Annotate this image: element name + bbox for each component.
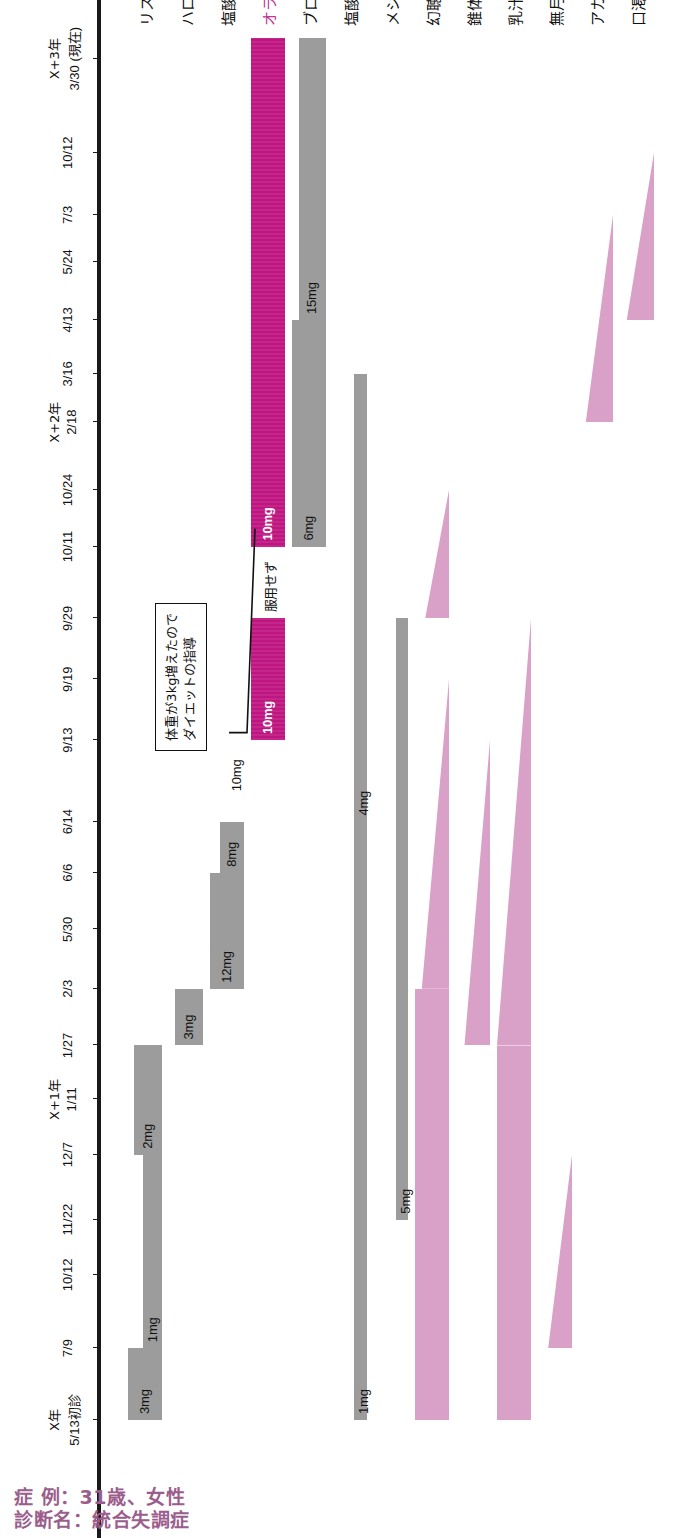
dose-label: 5mg	[398, 1189, 413, 1214]
axis-date-label: 10/12	[60, 1259, 75, 1292]
row-label-drug: リスペリドン	[135, 0, 156, 26]
row-label-drug: 塩酸ペロスピロン	[217, 0, 238, 26]
axis-tick	[93, 1274, 101, 1275]
axis-date-label: 5/24	[60, 249, 75, 274]
axis-tick	[93, 1219, 101, 1220]
annotation-line: ダイエットの指導	[181, 613, 199, 741]
row-label-drug: ブロマゼパム	[299, 0, 320, 26]
axis-tick-label: X+1年1/11	[44, 1079, 79, 1120]
time-axis-line	[97, 0, 101, 1538]
axis-date-label: 5/30	[60, 917, 75, 942]
axis-tick-label: 2/3	[60, 980, 75, 998]
axis-tick-label: 4/13	[60, 307, 75, 332]
row-label-drug: メシル酸ブロモクリプチン	[381, 0, 402, 26]
timeline-figure: X年5/13初診7/910/1211/2212/7X+1年1/111/272/3…	[0, 0, 682, 1538]
dose-bar	[354, 374, 367, 822]
axis-tick-label: 10/12	[60, 1259, 75, 1292]
axis-tick	[93, 617, 101, 618]
symptom-bar	[497, 1045, 531, 1420]
axis-tick-label: 1/27	[60, 1033, 75, 1058]
axis-tick	[93, 152, 101, 153]
annotation-leader-line	[0, 0, 682, 1538]
dose-label: 1mg	[356, 1389, 371, 1414]
axis-tick-label: 11/22	[60, 1204, 75, 1236]
dose-bar	[299, 38, 326, 320]
axis-tick	[93, 489, 101, 490]
axis-date-label: 10/24	[60, 474, 75, 507]
figure-page: X年5/13初診7/910/1211/2212/7X+1年1/111/272/3…	[0, 0, 682, 1538]
axis-date-label: 3/30 (現在)	[64, 27, 83, 91]
axis-date-label: 1/11	[64, 1079, 79, 1120]
axis-tick-label: 9/13	[60, 727, 75, 752]
symptom-bar	[579, 215, 613, 422]
symptom-bar	[497, 618, 531, 1045]
axis-date-label: 10/11	[60, 531, 75, 563]
axis-tick-label: 10/11	[60, 531, 75, 563]
axis-tick-label: 3/16	[60, 361, 75, 386]
symptom-bar	[415, 679, 449, 989]
axis-tick	[93, 373, 101, 374]
axis-tick	[93, 1347, 101, 1348]
axis-date-label: 9/29	[60, 606, 75, 631]
axis-date-label: 2/18	[64, 402, 79, 443]
axis-tick	[93, 546, 101, 547]
axis-date-label: 6/14	[60, 809, 75, 834]
axis-year-label: X+3年	[44, 27, 63, 91]
axis-year-label: X+1年	[44, 1079, 63, 1120]
axis-date-label: 9/13	[60, 727, 75, 752]
axis-date-label: 7/9	[60, 1339, 75, 1357]
axis-tick	[93, 821, 101, 822]
symptom-bar	[415, 989, 449, 1420]
axis-date-label: 6/6	[60, 864, 75, 882]
dose-label: 2mg	[140, 1124, 155, 1149]
axis-date-label: 5/13初診	[64, 1394, 83, 1445]
dose-label: 10mg	[260, 507, 275, 540]
annotation-line: 体重が3kg増えたので	[163, 613, 181, 741]
axis-date-label: 1/27	[60, 1033, 75, 1058]
dose-label: 4mg	[356, 791, 371, 816]
axis-tick-label: 5/24	[60, 249, 75, 274]
dose-label: 6mg	[301, 516, 316, 541]
row-label-drug: 塩酸ビペリデン	[340, 0, 361, 26]
axis-tick-label: 7/3	[60, 206, 75, 224]
axis-tick	[93, 1098, 101, 1099]
row-label-symptom: 幻聴	[422, 0, 443, 26]
axis-date-label: 10/12	[60, 136, 75, 169]
dose-label: 3mg	[137, 1389, 152, 1414]
axis-tick-label: 6/14	[60, 809, 75, 834]
axis-tick	[93, 58, 101, 59]
axis-date-label: 4/13	[60, 307, 75, 332]
axis-date-label: 3/16	[60, 361, 75, 386]
dose-label: 12mg	[219, 951, 234, 983]
axis-tick	[93, 928, 101, 929]
axis-year-label: X+2年	[44, 402, 63, 443]
axis-tick	[93, 988, 101, 989]
axis-tick-label: 6/6	[60, 864, 75, 882]
symptom-bar	[538, 1155, 572, 1348]
row-label-symptom: 乳汁分泌	[504, 0, 525, 26]
row-label-symptom: アカシジア	[586, 0, 607, 26]
axis-tick-label: X+2年2/18	[44, 402, 79, 443]
axis-tick	[93, 739, 101, 740]
row-label-symptom: 錐体外路症状	[463, 0, 484, 26]
row-label-drug: ハロペリドール	[176, 0, 197, 26]
axis-tick-label: 7/9	[60, 1339, 75, 1357]
axis-tick	[93, 421, 101, 422]
dose-bar	[251, 38, 285, 547]
row-label-symptom: 口渇	[627, 0, 648, 26]
dose-label: 服用せず	[260, 561, 279, 612]
axis-tick-label: X+3年3/30 (現在)	[44, 27, 83, 91]
dose-bar	[354, 822, 367, 1420]
axis-tick-label: 9/19	[60, 667, 75, 692]
axis-date-label: 2/3	[60, 980, 75, 998]
axis-tick-label: X年5/13初診	[44, 1394, 83, 1445]
dose-bar	[292, 320, 326, 547]
axis-date-label: 11/22	[60, 1204, 75, 1236]
axis-tick-label: 10/24	[60, 474, 75, 507]
dose-label: 10mg	[260, 701, 275, 734]
symptom-bar	[620, 153, 654, 320]
axis-tick	[93, 1154, 101, 1155]
axis-date-label: 9/19	[60, 667, 75, 692]
symptom-bar	[415, 490, 449, 619]
row-label-drug: オランザピン	[258, 0, 279, 26]
